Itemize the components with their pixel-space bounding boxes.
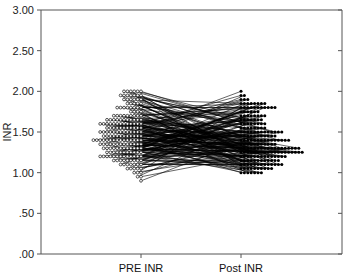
post-inr-point <box>243 163 246 166</box>
pre-inr-point <box>112 151 115 154</box>
pre-inr-point <box>129 151 132 154</box>
post-inr-point <box>267 155 270 158</box>
pre-inr-point <box>106 118 109 121</box>
post-inr-point <box>260 106 263 109</box>
post-inr-point <box>240 94 243 97</box>
post-inr-point <box>267 139 270 142</box>
post-inr-point <box>277 147 280 150</box>
post-inr-point <box>253 155 256 158</box>
pre-inr-point <box>129 131 132 134</box>
pre-inr-point <box>140 131 143 134</box>
pre-inr-point <box>126 131 129 134</box>
post-inr-point <box>274 135 277 138</box>
pre-inr-point <box>126 155 129 158</box>
post-inr-point <box>267 106 270 109</box>
pre-inr-point <box>129 135 132 138</box>
post-inr-point <box>253 114 256 117</box>
post-inr-point <box>263 151 266 154</box>
post-inr-point <box>250 171 253 174</box>
post-inr-point <box>240 106 243 109</box>
pre-inr-point <box>126 143 129 146</box>
pre-inr-point <box>116 106 119 109</box>
post-inr-point <box>260 118 263 121</box>
post-inr-point <box>240 131 243 134</box>
pre-inr-point <box>112 118 115 121</box>
post-inr-point <box>246 126 249 129</box>
post-inr-point <box>243 147 246 150</box>
pre-inr-point <box>123 114 126 117</box>
pre-inr-point <box>112 159 115 162</box>
post-inr-point <box>253 131 256 134</box>
pre-inr-point <box>140 102 143 105</box>
post-inr-point <box>284 151 287 154</box>
post-inr-point <box>250 139 253 142</box>
post-inr-point <box>257 131 260 134</box>
pre-inr-point <box>116 127 119 130</box>
post-inr-point <box>246 155 249 158</box>
post-inr-point <box>280 163 283 166</box>
y-tick-label: .00 <box>19 248 34 260</box>
post-inr-point <box>253 151 256 154</box>
post-inr-point <box>253 159 256 162</box>
post-inr-point <box>267 159 270 162</box>
post-inr-point <box>243 114 246 117</box>
pre-inr-point <box>126 94 129 97</box>
pre-inr-point <box>109 147 112 150</box>
post-inr-point <box>243 106 246 109</box>
post-inr-point <box>253 122 256 125</box>
pre-inr-point <box>112 135 115 138</box>
y-axis-title: INR <box>1 122 13 141</box>
post-inr-point <box>287 151 290 154</box>
pre-inr-point <box>126 163 129 166</box>
post-inr-point <box>274 163 277 166</box>
post-inr-point <box>263 159 266 162</box>
pre-inr-point <box>136 175 139 178</box>
post-inr-point <box>253 143 256 146</box>
post-inr-point <box>270 106 273 109</box>
post-inr-point <box>257 171 260 174</box>
pre-inr-point <box>109 143 112 146</box>
pre-inr-point <box>109 131 112 134</box>
post-inr-point <box>270 151 273 154</box>
post-inr-point <box>260 155 263 158</box>
pre-inr-point <box>136 139 139 142</box>
post-inr-point <box>263 102 266 105</box>
pre-inr-point <box>136 171 139 174</box>
pre-inr-point <box>106 143 109 146</box>
pre-inr-point <box>136 131 139 134</box>
pre-inr-point <box>140 147 143 150</box>
pre-inr-point <box>109 135 112 138</box>
post-inr-point <box>280 131 283 134</box>
pre-inr-point <box>129 102 132 105</box>
post-inr-point <box>260 171 263 174</box>
pre-inr-point <box>102 122 105 125</box>
post-inr-point <box>250 143 253 146</box>
post-inr-point <box>267 167 270 170</box>
pre-inr-point <box>140 171 143 174</box>
pre-inr-point <box>129 94 132 97</box>
pre-inr-point <box>119 163 122 166</box>
pre-inr-point <box>136 114 139 117</box>
pre-inr-point <box>126 106 129 109</box>
post-inr-point <box>243 151 246 154</box>
pre-inr-point <box>102 135 105 138</box>
post-inr-point <box>294 147 297 150</box>
y-tick-label: 1.50 <box>13 126 34 138</box>
pre-inr-point <box>123 90 126 93</box>
pre-inr-point <box>133 135 136 138</box>
pre-inr-point <box>123 127 126 130</box>
pre-inr-point <box>133 98 136 101</box>
pre-inr-point <box>102 131 105 134</box>
post-inr-point <box>257 155 260 158</box>
pre-inr-point <box>140 127 143 130</box>
pre-inr-point <box>126 118 129 121</box>
pre-inr-point <box>129 163 132 166</box>
post-inr-point <box>267 131 270 134</box>
pre-inr-point <box>123 131 126 134</box>
pre-inr-point <box>119 106 122 109</box>
post-inr-point <box>257 159 260 162</box>
post-inr-point <box>246 102 249 105</box>
x-label-pre-inr: PRE INR <box>119 262 164 274</box>
post-inr-point <box>240 159 243 162</box>
pre-inr-point <box>140 167 143 170</box>
